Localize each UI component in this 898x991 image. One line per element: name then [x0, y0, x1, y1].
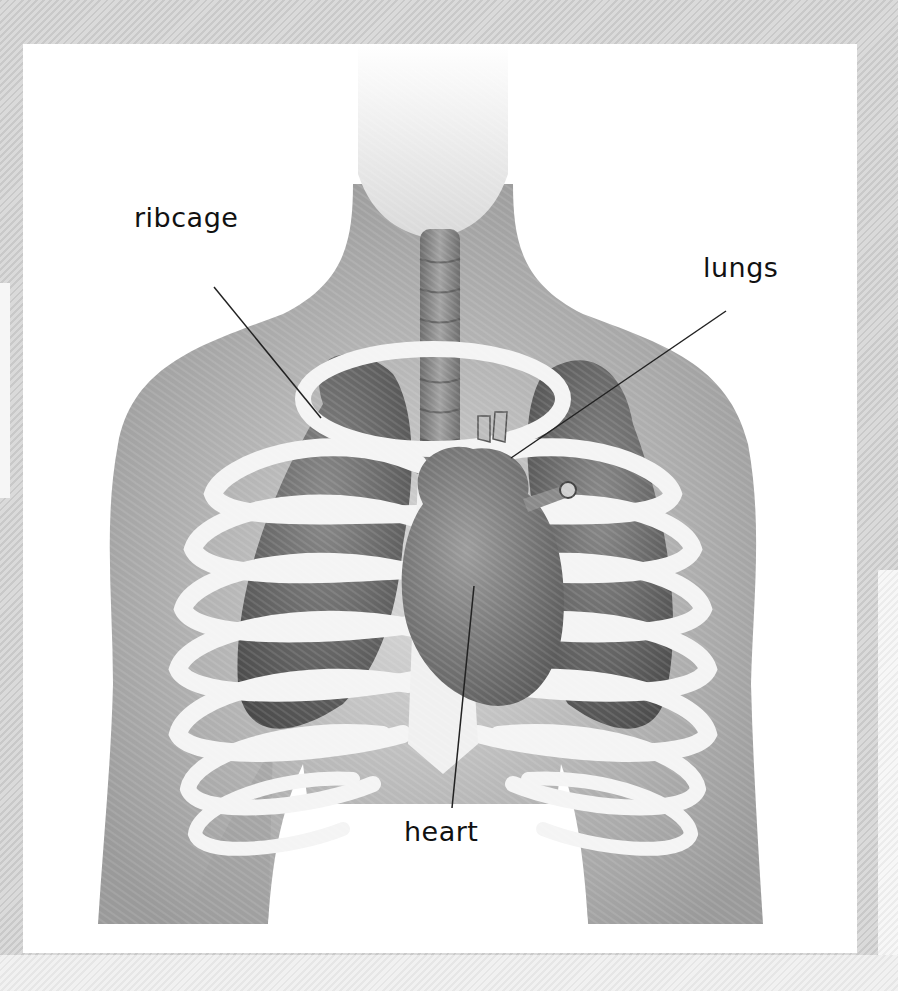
label-lungs: lungs — [703, 254, 778, 281]
label-ribcage: ribcage — [134, 204, 238, 231]
diagram-frame: ribcage lungs heart — [23, 44, 857, 953]
label-heart: heart — [404, 818, 478, 845]
background-left-card — [0, 283, 10, 498]
background-bottom-strip — [0, 955, 898, 991]
background-right-card — [878, 570, 898, 955]
